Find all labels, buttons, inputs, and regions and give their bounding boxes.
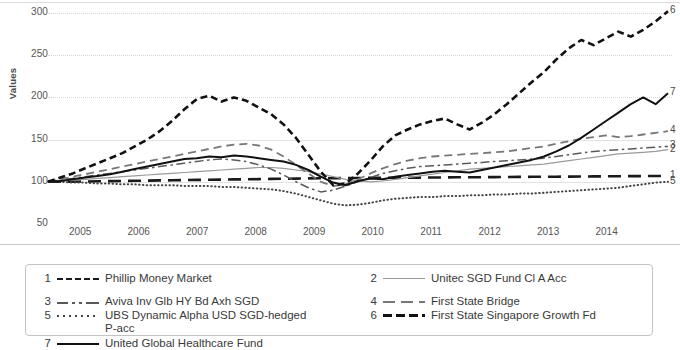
- legend-label-6: First State Singapore Growth Fd: [431, 309, 596, 322]
- x-axis-tick-2012: 2012: [462, 226, 518, 237]
- axis-bottom-rule: [0, 244, 680, 245]
- legend-number-7: 7: [40, 337, 51, 350]
- legend-number-2: 2: [366, 272, 377, 285]
- legend-item-7[interactable]: 7United Global Healthcare Fund: [40, 337, 263, 350]
- legend-line-swatch-6: [383, 309, 425, 322]
- legend-item-4[interactable]: 4First State Bridge: [366, 295, 520, 308]
- series-end-label-7: 7: [670, 86, 676, 97]
- series-line-5: [48, 182, 668, 206]
- x-axis-tick-2014: 2014: [579, 226, 635, 237]
- chart-legend: 1Phillip Money Market3Aviva Inv Glb HY B…: [25, 264, 653, 336]
- legend-label-3: Aviva Inv Glb HY Bd Axh SGD: [105, 295, 259, 308]
- legend-line-swatch-7: [57, 337, 99, 350]
- legend-label-cont-5: P-acc: [105, 322, 306, 335]
- legend-label-4: First State Bridge: [431, 295, 520, 308]
- legend-item-2[interactable]: 2Unitec SGD Fund Cl A Acc: [366, 272, 567, 285]
- legend-number-1: 1: [40, 272, 51, 285]
- x-axis-tick-2008: 2008: [228, 226, 284, 237]
- x-axis-tick-2005: 2005: [52, 226, 108, 237]
- x-axis-tick-2009: 2009: [286, 226, 342, 237]
- legend-item-6[interactable]: 6First State Singapore Growth Fd: [366, 309, 596, 322]
- x-axis-tick-2006: 2006: [111, 226, 167, 237]
- legend-number-6: 6: [366, 309, 377, 322]
- legend-label-7: United Global Healthcare Fund: [105, 337, 263, 350]
- legend-line-swatch-3: [57, 295, 99, 308]
- series-line-3: [48, 146, 668, 192]
- series-end-label-3: 3: [670, 139, 676, 150]
- legend-line-swatch-1: [57, 272, 99, 285]
- legend-line-swatch-2: [383, 272, 425, 285]
- legend-number-3: 3: [40, 295, 51, 308]
- legend-item-1[interactable]: 1Phillip Money Market: [40, 272, 212, 285]
- plot-area: Values 30025020015010050 1234567 2005200…: [0, 0, 680, 248]
- x-axis-tick-2007: 2007: [169, 226, 225, 237]
- legend-column-left: 1Phillip Money Market3Aviva Inv Glb HY B…: [40, 265, 350, 337]
- series-end-label-6: 6: [670, 4, 676, 15]
- series-end-label-4: 4: [670, 124, 676, 135]
- legend-line-swatch-5: [57, 309, 99, 322]
- series-lines: [0, 0, 680, 248]
- legend-line-swatch-4: [383, 295, 425, 308]
- x-axis-tick-2011: 2011: [403, 226, 459, 237]
- legend-column-right: 2Unitec SGD Fund Cl A Acc4First State Br…: [366, 265, 652, 337]
- x-axis-tick-2013: 2013: [520, 226, 576, 237]
- legend-label-5: UBS Dynamic Alpha USD SGD-hedgedP-acc: [105, 309, 306, 335]
- legend-number-4: 4: [366, 295, 377, 308]
- legend-label-2: Unitec SGD Fund Cl A Acc: [431, 272, 567, 285]
- legend-item-5[interactable]: 5UBS Dynamic Alpha USD SGD-hedgedP-acc: [40, 309, 306, 335]
- series-end-label-5: 5: [670, 175, 676, 186]
- x-axis-tick-2010: 2010: [345, 226, 401, 237]
- legend-number-5: 5: [40, 309, 51, 322]
- series-line-6: [48, 11, 668, 185]
- legend-item-3[interactable]: 3Aviva Inv Glb HY Bd Axh SGD: [40, 295, 259, 308]
- legend-label-1: Phillip Money Market: [105, 272, 212, 285]
